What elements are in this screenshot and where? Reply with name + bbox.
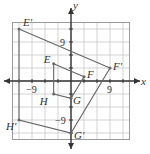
vertex-point bbox=[109, 67, 112, 70]
x-tick-label-9: 9 bbox=[107, 84, 112, 95]
point-label-h: H bbox=[39, 95, 49, 107]
y-axis-label: y bbox=[72, 0, 78, 11]
x-tick-label-neg9: −9 bbox=[26, 84, 37, 95]
vertex-point bbox=[52, 93, 55, 96]
coordinate-graph: xy9−99−9EFGHE'F'G'H' bbox=[0, 0, 150, 154]
vertex-point bbox=[83, 75, 86, 78]
point-label-e-prime: E' bbox=[22, 16, 33, 28]
x-axis-arrow-right bbox=[134, 78, 140, 84]
y-tick-label-neg9: −9 bbox=[55, 115, 66, 126]
point-label-f: F bbox=[86, 68, 94, 80]
vertex-point bbox=[18, 28, 21, 31]
x-axis-arrow-left bbox=[4, 78, 10, 84]
vertex-point bbox=[18, 119, 21, 122]
point-label-f-prime: F' bbox=[112, 60, 123, 72]
vertex-point bbox=[52, 62, 55, 65]
y-tick-label-9: 9 bbox=[60, 37, 65, 48]
x-axis-label: x bbox=[140, 75, 146, 87]
point-label-g: G bbox=[73, 94, 81, 106]
point-label-h-prime: H' bbox=[5, 120, 17, 132]
point-label-e: E bbox=[43, 53, 51, 65]
point-label-g-prime: G' bbox=[74, 129, 85, 141]
y-axis-arrow-down bbox=[68, 143, 74, 149]
vertex-point bbox=[70, 132, 73, 135]
